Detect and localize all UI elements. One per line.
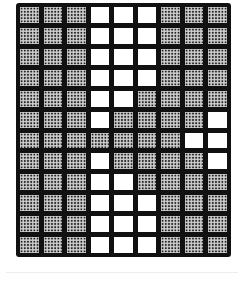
white-cell bbox=[138, 195, 157, 211]
white-cell bbox=[138, 49, 157, 65]
shaded-cell bbox=[44, 153, 63, 169]
shaded-cell bbox=[44, 70, 63, 86]
white-cell bbox=[114, 174, 133, 190]
shaded-cell bbox=[161, 216, 180, 232]
shaded-cell bbox=[114, 153, 133, 169]
white-cell bbox=[114, 7, 133, 23]
white-cell bbox=[91, 112, 110, 128]
white-cell bbox=[91, 174, 110, 190]
shaded-cell bbox=[67, 153, 86, 169]
shaded-cell bbox=[161, 237, 180, 253]
shaded-cell bbox=[138, 153, 157, 169]
shaded-cell bbox=[20, 153, 39, 169]
shaded-cell bbox=[44, 28, 63, 44]
shaded-cell bbox=[185, 195, 204, 211]
white-cell bbox=[91, 7, 110, 23]
shaded-cell bbox=[185, 70, 204, 86]
white-cell bbox=[91, 195, 110, 211]
shaded-cell bbox=[20, 112, 39, 128]
shaded-cell bbox=[67, 133, 86, 149]
shaded-cell bbox=[161, 70, 180, 86]
shaded-cell bbox=[138, 133, 157, 149]
shaded-cell bbox=[44, 174, 63, 190]
shaded-cell bbox=[44, 195, 63, 211]
white-cell bbox=[208, 133, 227, 149]
shaded-cell bbox=[185, 7, 204, 23]
pattern-grid bbox=[16, 3, 231, 257]
shaded-cell bbox=[20, 7, 39, 23]
white-cell bbox=[208, 112, 227, 128]
shaded-cell bbox=[20, 195, 39, 211]
shaded-cell bbox=[114, 112, 133, 128]
shaded-cell bbox=[67, 112, 86, 128]
shaded-cell bbox=[208, 7, 227, 23]
shaded-cell bbox=[161, 153, 180, 169]
shaded-cell bbox=[67, 91, 86, 107]
shaded-cell bbox=[67, 216, 86, 232]
shaded-cell bbox=[161, 49, 180, 65]
shaded-cell bbox=[185, 28, 204, 44]
white-cell bbox=[91, 216, 110, 232]
white-cell bbox=[91, 28, 110, 44]
shaded-cell bbox=[91, 133, 110, 149]
shaded-cell bbox=[67, 7, 86, 23]
white-cell bbox=[208, 153, 227, 169]
shaded-cell bbox=[67, 70, 86, 86]
white-cell bbox=[91, 237, 110, 253]
shaded-cell bbox=[208, 216, 227, 232]
shaded-cell bbox=[185, 91, 204, 107]
shaded-cell bbox=[67, 28, 86, 44]
white-cell bbox=[114, 91, 133, 107]
shaded-cell bbox=[20, 28, 39, 44]
white-cell bbox=[138, 216, 157, 232]
shaded-cell bbox=[20, 237, 39, 253]
shaded-cell bbox=[208, 237, 227, 253]
shaded-cell bbox=[20, 216, 39, 232]
shaded-cell bbox=[208, 174, 227, 190]
shaded-cell bbox=[161, 7, 180, 23]
white-cell bbox=[114, 49, 133, 65]
shaded-cell bbox=[208, 28, 227, 44]
white-cell bbox=[185, 133, 204, 149]
shaded-cell bbox=[67, 195, 86, 211]
white-cell bbox=[138, 70, 157, 86]
shaded-cell bbox=[138, 112, 157, 128]
shaded-cell bbox=[20, 133, 39, 149]
shaded-cell bbox=[67, 49, 86, 65]
shaded-cell bbox=[208, 49, 227, 65]
baseline-divider bbox=[6, 272, 238, 273]
white-cell bbox=[114, 216, 133, 232]
shaded-cell bbox=[20, 174, 39, 190]
shaded-cell bbox=[44, 7, 63, 23]
shaded-cell bbox=[20, 49, 39, 65]
shaded-cell bbox=[161, 91, 180, 107]
shaded-cell bbox=[185, 237, 204, 253]
shaded-cell bbox=[185, 174, 204, 190]
shaded-cell bbox=[20, 91, 39, 107]
shaded-cell bbox=[44, 91, 63, 107]
shaded-cell bbox=[208, 70, 227, 86]
white-cell bbox=[138, 7, 157, 23]
shaded-cell bbox=[44, 133, 63, 149]
shaded-cell bbox=[161, 28, 180, 44]
shaded-cell bbox=[67, 174, 86, 190]
white-cell bbox=[91, 153, 110, 169]
shaded-cell bbox=[44, 237, 63, 253]
white-cell bbox=[138, 28, 157, 44]
shaded-cell bbox=[185, 112, 204, 128]
shaded-cell bbox=[161, 195, 180, 211]
shaded-cell bbox=[138, 174, 157, 190]
white-cell bbox=[91, 91, 110, 107]
shaded-cell bbox=[114, 133, 133, 149]
white-cell bbox=[114, 70, 133, 86]
shaded-cell bbox=[44, 112, 63, 128]
shaded-cell bbox=[44, 216, 63, 232]
shaded-cell bbox=[185, 49, 204, 65]
shaded-cell bbox=[20, 70, 39, 86]
shaded-cell bbox=[161, 133, 180, 149]
shaded-cell bbox=[161, 174, 180, 190]
shaded-cell bbox=[208, 91, 227, 107]
shaded-cell bbox=[185, 153, 204, 169]
shaded-cell bbox=[44, 49, 63, 65]
shaded-cell bbox=[161, 112, 180, 128]
